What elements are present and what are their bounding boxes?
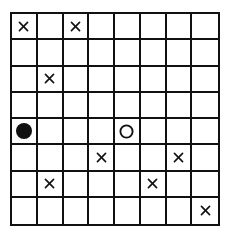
board-cell-r2-c5[interactable]	[141, 67, 167, 93]
board-cell-r3-c5[interactable]	[141, 93, 167, 119]
board-cell-r4-c1[interactable]	[38, 119, 64, 145]
board-cell-r2-c6[interactable]	[167, 67, 193, 93]
board-cell-r3-c3[interactable]	[89, 93, 115, 119]
board-cell-r3-c1[interactable]	[38, 93, 64, 119]
board-cell-r6-c5[interactable]	[141, 172, 167, 198]
board-cell-r4-c7[interactable]	[192, 119, 218, 145]
cross-icon	[146, 177, 159, 190]
open-circle-icon	[119, 124, 134, 139]
board-cell-r6-c4[interactable]	[115, 172, 141, 198]
board-cell-r1-c1[interactable]	[38, 40, 64, 66]
board-cell-r2-c0[interactable]	[12, 67, 38, 93]
board-cell-r6-c0[interactable]	[12, 172, 38, 198]
board-cell-r7-c6[interactable]	[167, 198, 193, 224]
board-cell-r1-c5[interactable]	[141, 40, 167, 66]
cross-icon	[69, 20, 82, 33]
board-cell-r0-c5[interactable]	[141, 14, 167, 40]
board-cell-r5-c5[interactable]	[141, 145, 167, 171]
board-cell-r6-c1[interactable]	[38, 172, 64, 198]
board-cell-r5-c6[interactable]	[167, 145, 193, 171]
board-cell-r5-c7[interactable]	[192, 145, 218, 171]
board-cell-r5-c4[interactable]	[115, 145, 141, 171]
board-cell-r4-c3[interactable]	[89, 119, 115, 145]
board-cell-r1-c6[interactable]	[167, 40, 193, 66]
board-cell-r7-c4[interactable]	[115, 198, 141, 224]
board-cell-r4-c5[interactable]	[141, 119, 167, 145]
cross-icon	[43, 72, 56, 85]
board-cell-r3-c7[interactable]	[192, 93, 218, 119]
cross-icon	[43, 177, 56, 190]
board-cell-r4-c4[interactable]	[115, 119, 141, 145]
board-cell-r0-c1[interactable]	[38, 14, 64, 40]
board-cell-r0-c3[interactable]	[89, 14, 115, 40]
board-cell-r3-c6[interactable]	[167, 93, 193, 119]
board-cell-r1-c2[interactable]	[64, 40, 90, 66]
board-cell-r6-c7[interactable]	[192, 172, 218, 198]
board-cell-r0-c6[interactable]	[167, 14, 193, 40]
board-cell-r7-c0[interactable]	[12, 198, 38, 224]
board-cell-r2-c7[interactable]	[192, 67, 218, 93]
board-cell-r2-c4[interactable]	[115, 67, 141, 93]
board-cell-r5-c2[interactable]	[64, 145, 90, 171]
board-cell-r7-c5[interactable]	[141, 198, 167, 224]
board-cell-r3-c2[interactable]	[64, 93, 90, 119]
cross-icon	[172, 151, 185, 164]
board-cell-r6-c3[interactable]	[89, 172, 115, 198]
board-cell-r7-c2[interactable]	[64, 198, 90, 224]
board-cell-r1-c4[interactable]	[115, 40, 141, 66]
board-cell-r2-c2[interactable]	[64, 67, 90, 93]
board-cell-r4-c2[interactable]	[64, 119, 90, 145]
board-cell-r1-c0[interactable]	[12, 40, 38, 66]
board-cell-r1-c7[interactable]	[192, 40, 218, 66]
board-cell-r4-c0[interactable]	[12, 119, 38, 145]
board-cell-r1-c3[interactable]	[89, 40, 115, 66]
board-cell-r2-c3[interactable]	[89, 67, 115, 93]
board-cell-r3-c0[interactable]	[12, 93, 38, 119]
board-cell-r7-c3[interactable]	[89, 198, 115, 224]
board-cell-r5-c0[interactable]	[12, 145, 38, 171]
board-cell-r2-c1[interactable]	[38, 67, 64, 93]
board-cell-r3-c4[interactable]	[115, 93, 141, 119]
board-cell-r0-c4[interactable]	[115, 14, 141, 40]
board-cell-r7-c7[interactable]	[192, 198, 218, 224]
cross-icon	[199, 204, 212, 217]
board-cell-r6-c2[interactable]	[64, 172, 90, 198]
board-cell-r6-c6[interactable]	[167, 172, 193, 198]
board-cell-r0-c0[interactable]	[12, 14, 38, 40]
board-cell-r5-c1[interactable]	[38, 145, 64, 171]
cross-icon	[95, 151, 108, 164]
board-cell-r4-c6[interactable]	[167, 119, 193, 145]
board-cell-r0-c2[interactable]	[64, 14, 90, 40]
cross-icon	[17, 20, 30, 33]
game-board	[10, 12, 220, 226]
board-cell-r0-c7[interactable]	[192, 14, 218, 40]
board-cell-r7-c1[interactable]	[38, 198, 64, 224]
board-cell-r5-c3[interactable]	[89, 145, 115, 171]
filled-circle-icon	[16, 123, 32, 139]
